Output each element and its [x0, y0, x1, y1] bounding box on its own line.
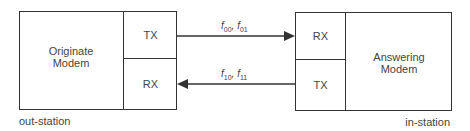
in-station-label: in-station: [405, 116, 450, 128]
freq-label-reverse: f10, f11: [221, 68, 247, 81]
out-station-label: out-station: [19, 115, 70, 127]
freq-label-forward: f00, f01: [221, 20, 248, 33]
